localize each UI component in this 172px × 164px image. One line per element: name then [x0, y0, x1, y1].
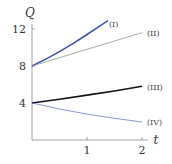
line-chart: 12 8 4 1 2 Q t (I) (II) (III) (IV) — [0, 0, 172, 164]
x-axis-title: t — [154, 133, 159, 147]
curve-3 — [32, 86, 142, 103]
x-tick-label-1: 1 — [84, 144, 91, 157]
curve-label-4: (IV) — [147, 118, 162, 127]
curve-2 — [32, 33, 142, 66]
curve-1 — [32, 21, 108, 66]
curve-label-2: (II) — [147, 29, 160, 38]
y-tick-label-8: 8 — [19, 60, 26, 73]
curves-group — [32, 21, 142, 122]
curve-label-3: (III) — [147, 83, 163, 92]
curve-label-1: (I) — [109, 20, 118, 29]
y-tick-label-12: 12 — [12, 23, 26, 36]
y-tick-label-4: 4 — [19, 97, 26, 110]
x-tick-label-2: 2 — [139, 144, 146, 157]
y-axis-title: Q — [25, 6, 35, 20]
curve-4 — [32, 103, 142, 122]
